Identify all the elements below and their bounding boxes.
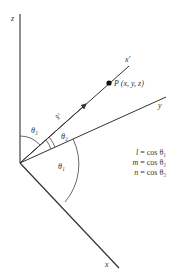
unit-vector-arrow: [20, 104, 86, 163]
point-p: [106, 80, 111, 85]
theta3-arc: [20, 136, 40, 145]
equation-n: n = cos θ₃: [118, 168, 166, 178]
theta3-label: θ₃: [31, 127, 38, 135]
theta2-arc-1: [46, 140, 51, 149]
theta1-label: θ₁: [58, 163, 65, 171]
equations: l = cos θ₁ m = cos θ₂ n = cos θ₃: [118, 148, 166, 178]
theta1-arc: [65, 139, 79, 202]
y-axis-label: y: [158, 102, 162, 110]
point-p-label: P (x, y, z): [114, 80, 144, 88]
direction-cosines-diagram: [0, 0, 179, 279]
theta2-label: θ₂: [61, 133, 68, 141]
x-axis: [20, 163, 119, 268]
equation-l: l = cos θ₁: [118, 148, 166, 158]
xprime-axis-label: x′: [125, 56, 130, 64]
equation-m: m = cos θ₂: [118, 158, 166, 168]
x-axis-label: x: [105, 261, 109, 269]
z-axis-label: z: [11, 15, 14, 23]
